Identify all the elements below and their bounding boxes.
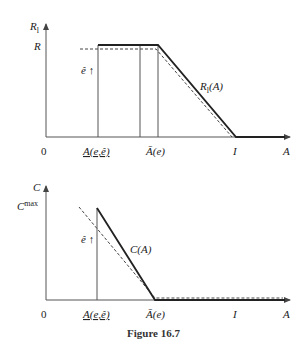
bottom-origin: 0 [41,308,47,320]
bottom-x-tick-I: I [232,308,238,320]
bottom-solid-curve [97,208,285,300]
top-x-tick-A-bar: Ā(e) [145,145,165,158]
top-origin: 0 [41,145,47,157]
top-curve-label: Rl(A) [199,80,223,95]
top-x-axis-label: A [282,145,290,157]
top-panel: Rl R ê ↑ Rl(A) 0 A(e,ê) Ā(e) I A [29,20,290,158]
top-y-axis-label: Rl [29,20,40,35]
figure-canvas: Rl R ê ↑ Rl(A) 0 A(e,ê) Ā(e) I A C Cmax … [0,0,308,356]
bottom-panel: C Cmax ê ↑ C(A) 0 A(e,ê) Ā(e) I A [17,181,290,321]
bottom-curve-label: C(A) [130,243,152,256]
bottom-x-axis-label: A [282,308,290,320]
top-shift-label: ê ↑ [81,64,94,76]
top-x-tick-A-lower: A(e,ê) [82,145,110,158]
bottom-y-tick-Cmax: Cmax [17,199,38,212]
bottom-y-axis-label: C [33,181,41,193]
bottom-shift-label: ê ↑ [81,233,94,245]
bottom-dashed-curve [79,207,283,298]
top-x-tick-I: I [232,145,238,157]
bottom-x-tick-A-bar: Ā(e) [145,308,165,321]
top-dashed-curve [80,49,232,137]
bottom-x-tick-A-lower: A(e,ê) [82,308,110,321]
top-solid-curve [98,45,285,137]
top-y-tick-R: R [33,40,41,52]
figure-caption: Figure 16.7 [127,327,180,339]
